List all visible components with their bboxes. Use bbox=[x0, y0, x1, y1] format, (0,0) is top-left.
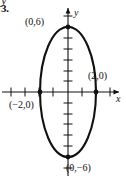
point-label-right: (2,0) bbox=[88, 71, 107, 81]
point-bottom bbox=[66, 155, 71, 160]
point-top bbox=[66, 25, 71, 30]
figure-container: y 3. bbox=[0, 0, 126, 182]
x-axis bbox=[2, 88, 119, 97]
point-label-top: (0,6) bbox=[25, 17, 44, 27]
point-left bbox=[38, 90, 43, 95]
coordinate-plane bbox=[0, 0, 126, 182]
point-label-left: (−2,0) bbox=[9, 100, 34, 110]
x-axis-label: x bbox=[116, 94, 120, 104]
point-label-bottom: (0,−6) bbox=[66, 163, 91, 173]
point-right bbox=[94, 90, 99, 95]
y-axis-label: y bbox=[74, 8, 78, 18]
